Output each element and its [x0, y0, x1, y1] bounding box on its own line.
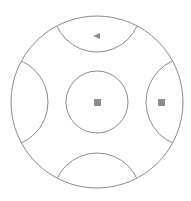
region-top[interactable] [53, 0, 141, 52]
region-bottom[interactable] [53, 153, 141, 201]
square-icon [94, 99, 101, 106]
region-left[interactable] [0, 57, 48, 147]
square-icon [158, 99, 165, 106]
triangle-left-icon [93, 33, 100, 39]
game-board [0, 0, 191, 201]
region-right[interactable] [146, 57, 191, 147]
